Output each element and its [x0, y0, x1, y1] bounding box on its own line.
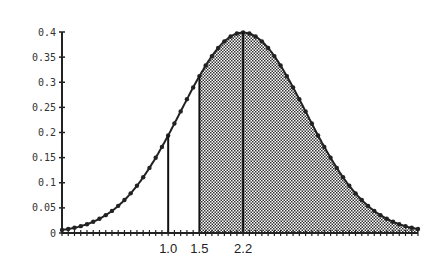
- svg-text:0.2: 0.2: [38, 127, 56, 138]
- svg-text:1.0: 1.0: [159, 241, 177, 256]
- svg-text:1.5: 1.5: [190, 241, 208, 256]
- shaded-region: [199, 33, 418, 234]
- normal-density-chart: 00.050.10.150.20.250.30.350.4 1.01.52.2: [0, 0, 437, 273]
- svg-text:0.3: 0.3: [38, 77, 56, 88]
- svg-text:0.05: 0.05: [32, 202, 56, 213]
- svg-text:0.1: 0.1: [38, 177, 56, 188]
- svg-text:0.35: 0.35: [32, 52, 56, 63]
- svg-text:0: 0: [50, 228, 56, 239]
- svg-text:0.4: 0.4: [38, 27, 56, 38]
- svg-text:0.15: 0.15: [32, 152, 56, 163]
- svg-text:2.2: 2.2: [234, 241, 252, 256]
- svg-text:0.25: 0.25: [32, 102, 56, 113]
- y-axis-ticks: 00.050.10.150.20.250.30.350.4: [32, 27, 65, 239]
